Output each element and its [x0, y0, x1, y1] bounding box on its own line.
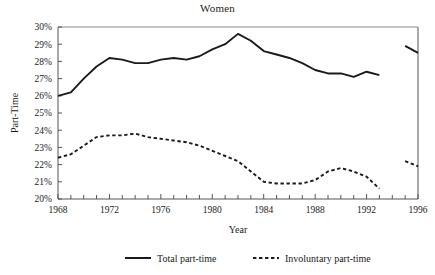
chart-figure: Women 20%21%22%23%24%25%26%27%28%29%30% … — [0, 0, 435, 275]
y-tick-label: 23% — [35, 143, 53, 153]
y-tick-label: 22% — [35, 160, 53, 170]
y-axis-tick-labels: 20%21%22%23%24%25%26%27%28%29%30% — [35, 22, 53, 204]
y-tick-label: 21% — [35, 177, 53, 187]
data-series-layer — [58, 34, 418, 189]
x-axis-tick-labels: 19681972197619801984198819921996 — [49, 205, 428, 215]
series-line-2 — [58, 134, 379, 189]
x-tick-label: 1976 — [151, 205, 170, 215]
x-tick-label: 1968 — [49, 205, 68, 215]
y-tick-label: 26% — [35, 91, 53, 101]
y-tick-label: 28% — [35, 57, 53, 67]
y-axis-ticks — [58, 27, 62, 199]
legend-label-2: Involuntary part-time — [285, 253, 371, 264]
y-tick-label: 29% — [35, 40, 53, 50]
x-axis-title: Year — [229, 224, 248, 235]
x-tick-label: 1972 — [100, 205, 119, 215]
series-line-1 — [405, 46, 418, 53]
y-tick-label: 20% — [35, 194, 53, 204]
legend-label-1: Total part-time — [157, 253, 217, 264]
x-tick-label: 1996 — [409, 205, 428, 215]
axis-frame — [58, 27, 418, 199]
y-tick-label: 27% — [35, 74, 53, 84]
x-tick-label: 1992 — [357, 205, 376, 215]
series-line-2 — [405, 161, 418, 166]
series-line-1 — [58, 34, 379, 96]
x-axis-ticks — [58, 194, 418, 199]
line-chart-plot: 20%21%22%23%24%25%26%27%28%29%30% 196819… — [0, 0, 435, 275]
y-tick-label: 24% — [35, 126, 53, 136]
y-tick-label: 30% — [35, 22, 53, 32]
y-axis-title: Part-Time — [9, 92, 20, 133]
x-tick-label: 1988 — [306, 205, 325, 215]
x-tick-label: 1984 — [254, 205, 273, 215]
y-tick-label: 25% — [35, 108, 53, 118]
x-tick-label: 1980 — [203, 205, 222, 215]
chart-legend: Total part-timeInvoluntary part-time — [125, 253, 371, 264]
